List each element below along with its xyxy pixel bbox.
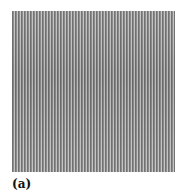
vertical-grating-image [12, 11, 175, 172]
panel-label: (a) [12, 177, 31, 191]
